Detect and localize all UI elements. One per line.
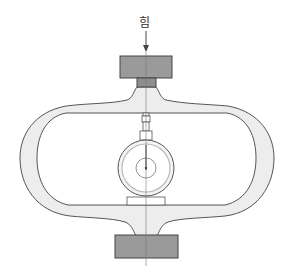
bottom-load-block [115, 235, 178, 258]
force-arrow-icon [143, 31, 149, 52]
proving-ring-diagram [0, 0, 290, 276]
